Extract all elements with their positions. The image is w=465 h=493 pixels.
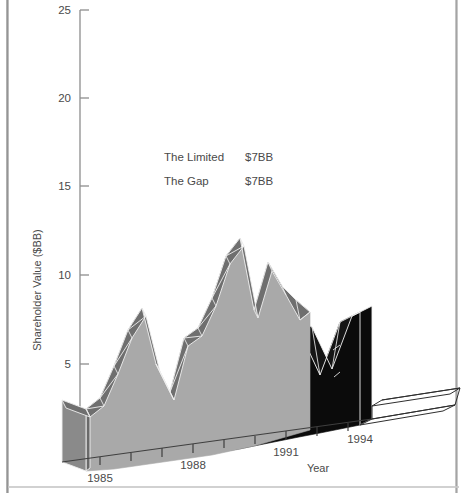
legend-label-the-gap: The Gap [164, 175, 209, 187]
legend-label-the-limited: The Limited [164, 151, 224, 163]
y-axis-title: Shareholder Value ($BB) [31, 229, 43, 350]
floor-plate-outer [360, 405, 455, 425]
y-tick-label-5: 5 [65, 358, 71, 370]
floor-plate-edge-a [372, 405, 455, 419]
y-tick-label-15: 15 [58, 180, 71, 192]
x-tick-label-1985: 1985 [87, 472, 113, 484]
the-gap-right-cut-face [360, 306, 372, 425]
x-axis-title: Year [307, 462, 330, 474]
x-tick-label-1994: 1994 [347, 433, 373, 445]
y-axis: 25 20 15 10 5 0 Shareholder Value ($BB) [31, 4, 89, 458]
page-canvas: 25 20 15 10 5 0 Shareholder Value ($BB) [0, 0, 465, 493]
x-tick-label-1988: 1988 [180, 459, 206, 471]
y-tick-label-25: 25 [58, 4, 71, 16]
legend: The Limited $7BB The Gap $7BB [164, 151, 273, 187]
y-tick-label-20: 20 [58, 92, 71, 104]
the-limited-left-cut-face [86, 409, 90, 471]
x-tick-label-1991: 1991 [273, 446, 299, 458]
floor-plate-inner [372, 388, 460, 406]
legend-value-the-gap: $7BB [245, 175, 273, 187]
series-the-limited [62, 238, 310, 471]
three-d-area-chart: 25 20 15 10 5 0 Shareholder Value ($BB) [0, 0, 465, 493]
y-tick-label-10: 10 [58, 269, 71, 281]
legend-value-the-limited: $7BB [245, 151, 273, 163]
chart-floor-plates [360, 388, 460, 425]
